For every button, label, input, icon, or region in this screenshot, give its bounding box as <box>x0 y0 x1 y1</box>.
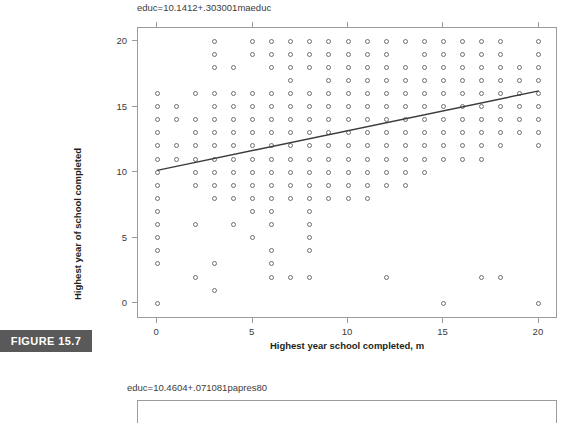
y-axis-tick <box>132 237 137 238</box>
x-axis-tick-label: 5 <box>249 326 254 337</box>
chart-maeduc-scatter: educ=10.1412+.303001maeduc Highest year … <box>0 0 567 365</box>
x-axis-tick-top <box>442 22 443 27</box>
y-axis-tick-label: 20 <box>105 35 127 46</box>
x-axis-tick-top <box>252 22 253 27</box>
y-axis-tick-label: 5 <box>105 231 127 242</box>
x-axis-tick <box>442 318 443 323</box>
x-axis-tick-label: 15 <box>437 326 448 337</box>
chart-title-papres80: educ=10.4604+.071081papres80 <box>127 382 267 393</box>
x-axis-title-maeduc: Highest year school completed, m <box>270 340 424 351</box>
x-axis-tick-top <box>538 22 539 27</box>
x-axis-tick-top <box>156 22 157 27</box>
x-axis-tick-label: 20 <box>533 326 544 337</box>
y-axis-tick-label: 0 <box>105 297 127 308</box>
plot-area-papres80 <box>137 400 557 423</box>
plot-points-layer-papres80 <box>138 401 556 423</box>
chart-papres80-scatter: educ=10.4604+.071081papres80 20 <box>0 370 567 423</box>
x-axis-tick <box>156 318 157 323</box>
regression-line-maeduc <box>138 28 558 319</box>
y-axis-tick-label: 15 <box>105 100 127 111</box>
y-axis-tick <box>132 40 137 41</box>
plot-area-maeduc <box>137 27 557 318</box>
y-axis-tick <box>132 171 137 172</box>
chart-title-maeduc: educ=10.1412+.303001maeduc <box>137 2 271 13</box>
x-axis-tick-top <box>347 22 348 27</box>
y-axis-title-maeduc: Highest year of school completed <box>72 148 83 300</box>
x-axis-tick-label: 0 <box>153 326 158 337</box>
y-axis-tick <box>132 302 137 303</box>
x-axis-tick-label: 10 <box>342 326 353 337</box>
y-axis-tick <box>132 106 137 107</box>
x-axis-tick <box>347 318 348 323</box>
x-axis-tick <box>538 318 539 323</box>
y-axis-tick-label: 10 <box>105 166 127 177</box>
x-axis-tick <box>252 318 253 323</box>
